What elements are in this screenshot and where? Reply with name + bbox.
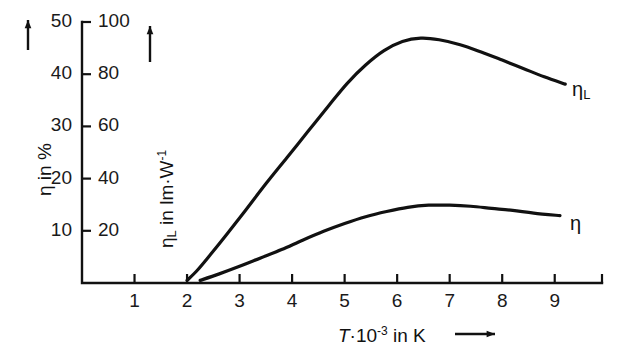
left-axis-title: η in % — [34, 143, 56, 196]
inner-axis-tick-label: 100 — [98, 10, 130, 32]
left-axis-symbol: η — [34, 185, 55, 196]
x-axis-exponent: -3 — [377, 324, 388, 338]
chart-figure: 1020304050 20406080100 123456789 η in % … — [0, 0, 619, 359]
x-axis-tick-label: 2 — [167, 290, 207, 312]
inner-axis-unit-text: in lm·W — [156, 161, 177, 225]
x-axis-tick-label: 7 — [430, 290, 470, 312]
series-curve-eta — [200, 205, 560, 280]
x-axis-symbol: T — [338, 325, 350, 346]
inner-axis-tick-label: 40 — [98, 167, 119, 189]
left-axis-tick-label: 40 — [24, 62, 72, 84]
left-axis-tick-label: 10 — [24, 219, 72, 241]
x-axis-tick-label: 1 — [115, 290, 155, 312]
series-label-eta-l-subscript: L — [583, 87, 590, 102]
x-axis-title: T·10-3 in K — [338, 324, 426, 347]
left-axis-tick-label: 50 — [24, 10, 72, 32]
series-label-eta-l: ηL — [572, 78, 590, 102]
x-axis-tick-label: 6 — [377, 290, 417, 312]
inner-axis-tick-label: 20 — [98, 219, 119, 241]
series-curve-eta-l — [187, 38, 565, 280]
inner-axis-subscript: L — [164, 230, 179, 237]
series-label-eta-symbol: η — [570, 212, 581, 234]
x-axis-tick-label: 3 — [220, 290, 260, 312]
left-axis-tick-label: 30 — [24, 114, 72, 136]
x-axis-tick-label: 5 — [325, 290, 365, 312]
x-axis-tick-label: 4 — [272, 290, 312, 312]
inner-axis-arrow-icon — [147, 26, 154, 62]
inner-axis-title: ηL in lm·W-1 — [155, 150, 179, 248]
series-label-eta: η — [570, 212, 581, 235]
inner-axis-tick-label: 80 — [98, 62, 119, 84]
inner-axis-exponent: -1 — [155, 150, 169, 161]
x-axis-tick-label: 8 — [482, 290, 522, 312]
x-axis-unit-text: in K — [393, 325, 426, 346]
left-axis-unit-text: in % — [34, 143, 55, 180]
x-axis-tick-label: 9 — [535, 290, 575, 312]
x-axis-base: 10 — [356, 325, 377, 346]
inner-axis-tick-label: 60 — [98, 114, 119, 136]
x-axis-arrow-icon — [455, 331, 495, 338]
inner-axis-symbol: η — [156, 237, 177, 248]
curves-layer — [187, 38, 565, 280]
series-label-eta-l-symbol: η — [572, 78, 583, 100]
